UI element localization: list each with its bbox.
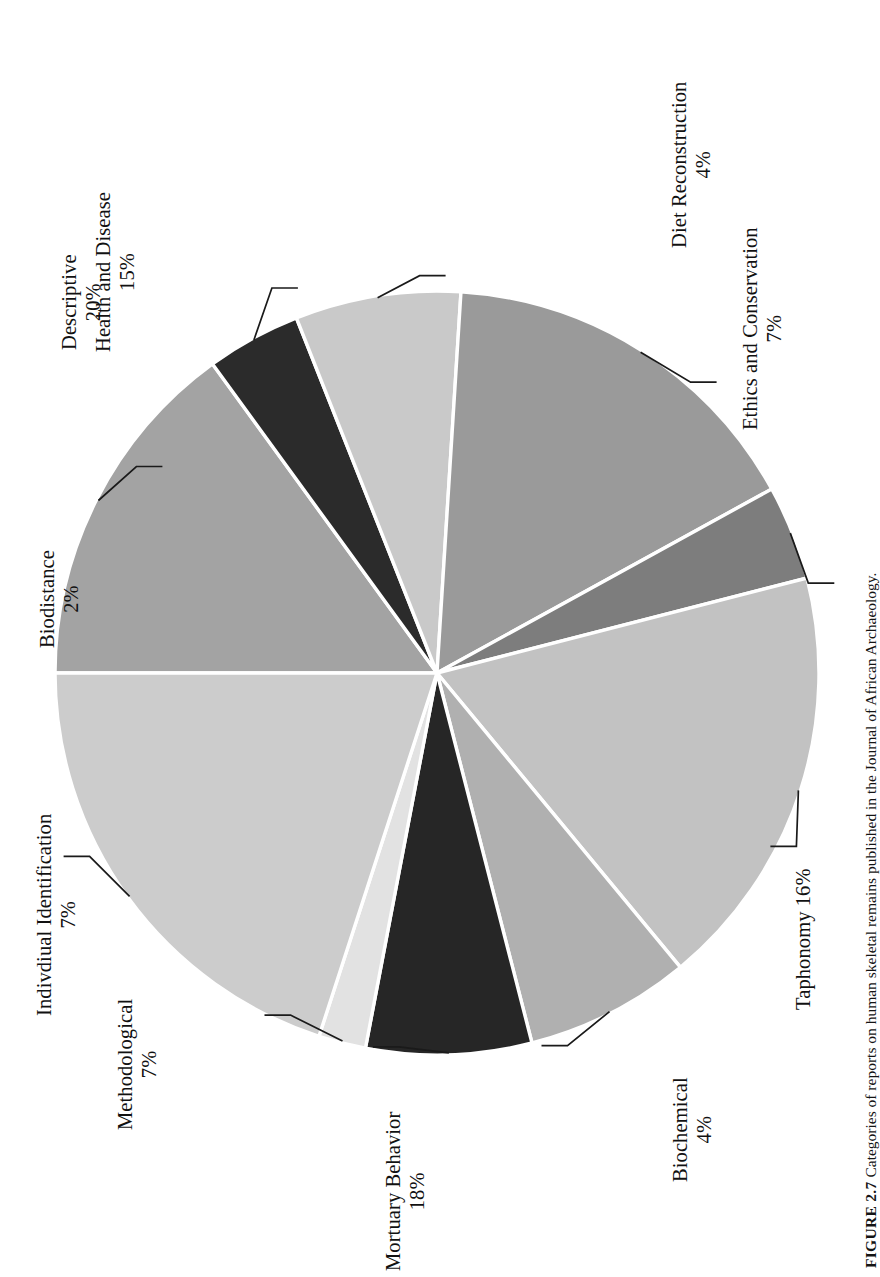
slice-label-methodological: Methodological 7% <box>114 999 162 1130</box>
slice-label-descriptive: Descriptive 20% <box>58 254 106 350</box>
slice-label-diet: Diet Reconstruction 4% <box>668 82 716 248</box>
slice-label-taphonomy: Taphonomy 16% <box>792 868 816 1010</box>
pie-slices <box>55 291 819 1055</box>
figure-caption: FIGURE 2.7 Categories of reports on huma… <box>862 573 880 1268</box>
slice-label-ethics: Ethics and Conservation 7% <box>739 227 787 430</box>
slice-label-biochemical: Biochemical 4% <box>669 1077 717 1182</box>
slice-label-biodistance: Biodistance 2% <box>36 550 84 648</box>
slice-label-individual: Indivdiual Identification 7% <box>33 814 81 1016</box>
slice-label-mortuary: Mortuary Behavior 18% <box>382 1112 430 1271</box>
